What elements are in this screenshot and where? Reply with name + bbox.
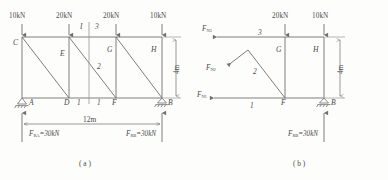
joint-label-D: D <box>64 99 69 107</box>
reaction-label-A: FRA=30kN <box>29 131 59 139</box>
load-label-G: 20kN <box>103 13 119 20</box>
joint-label-E: E <box>60 50 65 58</box>
load-label-E: 20kN <box>56 13 72 20</box>
caption-b: ( b ) <box>293 160 305 167</box>
member-number-2-b: 2 <box>253 68 257 75</box>
joint-label-G: G <box>107 46 112 54</box>
reaction-value-B-b: =30kN <box>298 130 318 138</box>
member-force-subscript-N3: N3 <box>206 28 211 33</box>
joint-label-B-b: B <box>331 99 336 107</box>
diagram-b-member-force-arrows <box>214 37 248 98</box>
reaction-label-B: FRB=30kN <box>126 131 156 139</box>
dimension-label-span: 12m <box>83 116 96 123</box>
reaction-value-A: =30kN <box>39 130 59 138</box>
joint-label-H: H <box>151 46 156 54</box>
dimension-label-height-b: 4m <box>338 65 345 74</box>
member-force-label-N1: FN1 <box>197 92 207 100</box>
member-force-subscript-N1: N1 <box>201 94 206 99</box>
load-label-H: 10kN <box>150 13 166 20</box>
member-number-1-left-a: 1 <box>77 99 81 106</box>
member-diagonal-CD <box>22 37 69 98</box>
support-roller-B-b <box>317 98 331 107</box>
load-label-H-b: 10kN <box>312 13 328 20</box>
caption-a: ( a ) <box>79 160 91 167</box>
joint-label-F-b: F <box>281 99 286 107</box>
member-force-label-N3: FN3 <box>202 26 212 34</box>
load-label-G-b: 20kN <box>272 13 288 20</box>
diagram-a-load-arrows <box>22 24 162 35</box>
member-force-label-N2: FN2 <box>206 65 216 73</box>
member-number-3-b: 3 <box>258 29 262 36</box>
force-arrow-N2 <box>231 50 248 63</box>
joint-label-C: C <box>13 39 18 47</box>
diagram-a-geometry <box>22 37 162 98</box>
member-number-1-right-a: 1 <box>97 99 101 106</box>
member-number-3-a: 3 <box>95 23 99 30</box>
load-label-C: 10kN <box>9 13 25 20</box>
member-number-1-b: 1 <box>250 102 254 109</box>
support-pin-A <box>15 98 29 108</box>
support-roller-B <box>155 98 169 107</box>
figure-root: 10kN 20kN 20kN 10kN C E G H A D F B I 3 … <box>0 0 388 180</box>
joint-label-F: F <box>112 99 117 107</box>
reaction-value-B: =30kN <box>136 130 156 138</box>
dimension-label-height-a: 4m <box>174 65 181 74</box>
section-label-top: I <box>80 23 82 30</box>
joint-label-G-b: G <box>276 46 281 54</box>
joint-label-A: A <box>29 99 34 107</box>
member-force-subscript-N2: N2 <box>210 67 215 72</box>
diagram-b-load-arrows <box>285 24 324 35</box>
reaction-label-B-b: FRB=30kN <box>288 131 318 139</box>
member-number-2-a: 2 <box>97 63 101 70</box>
figure-svg <box>0 0 388 180</box>
joint-label-H-b: H <box>313 46 318 54</box>
joint-label-B: B <box>168 99 173 107</box>
